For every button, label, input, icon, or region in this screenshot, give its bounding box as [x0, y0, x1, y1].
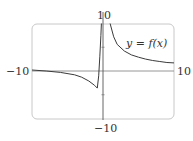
curve-branch-left [32, 24, 101, 89]
y-max-label: 10 [97, 10, 111, 21]
y-min-label: −10 [94, 123, 117, 134]
x-min-label: −10 [6, 66, 29, 77]
function-label: y = f(x) [126, 38, 167, 49]
x-max-label: 10 [177, 66, 191, 77]
